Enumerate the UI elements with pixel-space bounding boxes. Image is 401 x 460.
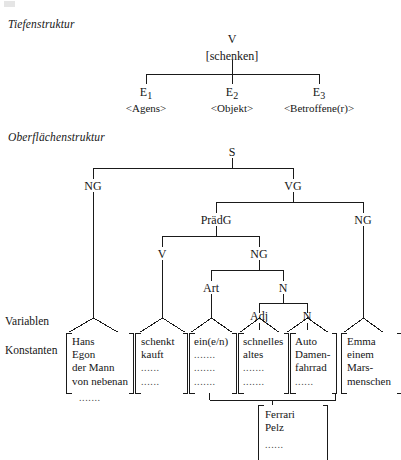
node-adj: Adj	[250, 310, 268, 322]
row-label-konstanten: Konstanten	[5, 345, 57, 357]
constant-col-ferrari: Ferrari Pelz ......	[265, 408, 295, 452]
node-e1: E1	[140, 86, 152, 101]
list-item: fahrrad	[295, 361, 330, 374]
list-item: Emma	[347, 335, 391, 348]
list-item: schnelles	[243, 335, 283, 348]
list-item: ......	[295, 375, 330, 388]
constant-col-schnelles: schnelles altes ....... .......	[243, 335, 283, 388]
tree-linework	[0, 0, 401, 460]
list-item: ......	[141, 361, 175, 374]
list-item: .......	[194, 348, 228, 361]
list-item: Auto	[295, 335, 330, 348]
node-e3: E3	[313, 86, 325, 101]
node-praedg: PrädG	[201, 214, 232, 226]
row-label-variablen: Variablen	[5, 316, 49, 328]
list-item: Egon	[72, 348, 128, 361]
section-title-oberflaechenstruktur: Oberflächenstruktur	[8, 132, 105, 144]
list-item: .......	[194, 361, 228, 374]
constant-col-ein: ein(e/n) ....... ....... .......	[194, 335, 228, 388]
list-item: Hans	[72, 335, 128, 348]
constant-col-auto: Auto Damen- fahrrad ......	[295, 335, 330, 388]
list-item: .......	[243, 361, 283, 374]
list-item: .......	[194, 375, 228, 388]
role-betroffener: <Betroffene(r)>	[284, 103, 354, 114]
node-art: Art	[203, 282, 219, 294]
list-item: schenkt	[141, 335, 175, 348]
node-n2: N	[303, 310, 312, 322]
list-item: altes	[243, 348, 283, 361]
constant-col-hans-trailing: .......	[79, 392, 101, 403]
list-item: menschen	[347, 375, 391, 388]
node-v-deep: V	[228, 33, 237, 45]
list-item: einem	[347, 348, 391, 361]
constant-col-hans: Hans Egon der Mann von nebenan	[72, 335, 128, 388]
list-item: der Mann	[72, 361, 128, 374]
node-n1: N	[279, 282, 288, 294]
list-item: ein(e/n)	[194, 335, 228, 348]
role-agens: <Agens>	[126, 103, 167, 114]
list-item: .......	[243, 375, 283, 388]
node-v-feature: [schenken]	[206, 50, 259, 62]
constant-col-schenkt: schenkt kauft ...... ......	[141, 335, 175, 388]
role-objekt: <Objekt>	[211, 103, 253, 114]
node-vg: VG	[284, 180, 301, 192]
list-item: kauft	[141, 348, 175, 361]
list-item: Damen-	[295, 348, 330, 361]
list-item: von nebenan	[72, 375, 128, 388]
list-item: Pelz	[265, 421, 295, 434]
list-item: ......	[141, 375, 175, 388]
section-title-tiefenstruktur: Tiefenstruktur	[8, 19, 75, 31]
node-ng-right: NG	[354, 214, 371, 226]
constant-col-emma: Emma einem Mars- menschen	[347, 335, 391, 388]
list-item: ......	[265, 438, 295, 451]
list-item: Mars-	[347, 361, 391, 374]
list-item: Ferrari	[265, 408, 295, 421]
node-ng-object: NG	[250, 248, 267, 260]
node-s: S	[229, 146, 236, 158]
figure-canvas: Tiefenstruktur Oberflächenstruktur V [sc…	[0, 0, 401, 460]
node-e2: E2	[226, 86, 238, 101]
node-ng-subject: NG	[84, 180, 101, 192]
node-v-surface: V	[158, 248, 167, 260]
